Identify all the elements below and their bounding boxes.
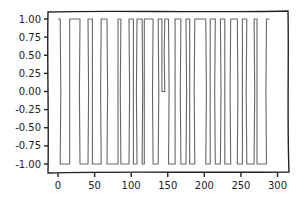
x-tick-label: 200 (195, 180, 214, 191)
data-line (58, 19, 270, 164)
x-tick-label: 250 (231, 180, 250, 191)
y-tick-label: -0.25 (15, 104, 41, 115)
x-axis: 050100150200250300 (55, 173, 287, 191)
x-tick-label: 300 (268, 180, 287, 191)
y-axis: 1.000.750.500.250.00-0.25-0.50-0.75-1.00 (15, 14, 48, 170)
chart: 1.000.750.500.250.00-0.25-0.50-0.75-1.00… (0, 0, 304, 201)
y-tick-label: -1.00 (15, 159, 41, 170)
y-tick-label: 0.75 (19, 32, 41, 43)
y-tick-label: 0.00 (19, 86, 41, 97)
y-tick-label: -0.75 (15, 140, 41, 151)
x-tick-label: 50 (88, 180, 101, 191)
y-tick-label: 0.25 (19, 68, 41, 79)
x-tick-label: 0 (55, 180, 61, 191)
y-tick-label: 0.50 (19, 50, 41, 61)
y-tick-label: 1.00 (19, 14, 41, 25)
x-tick-label: 150 (158, 180, 177, 191)
x-tick-label: 100 (122, 180, 141, 191)
y-tick-label: -0.50 (15, 122, 41, 133)
